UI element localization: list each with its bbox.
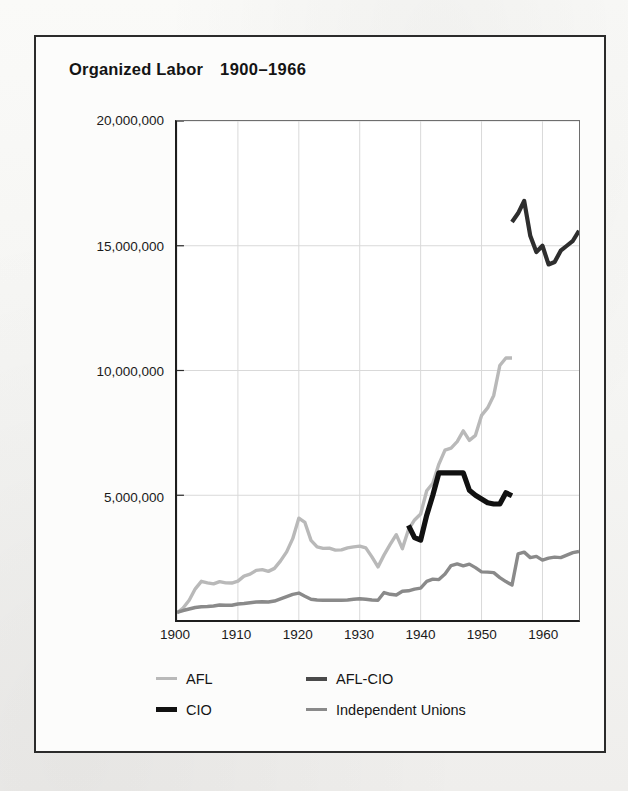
gridlines [177,121,579,620]
chart-title-years: 1900–1966 [220,60,306,78]
legend-row: CIOIndependent Unions [156,694,556,725]
legend-swatch-icon [306,677,327,681]
page-title: Organized Labor1900–1966 [69,60,306,79]
legend-label: CIO [186,702,212,718]
series-line-afl [177,358,512,613]
x-axis-tick-label: 1920 [283,627,313,642]
legend-item-afl[interactable]: AFL [156,671,306,687]
figure-frame: Organized Labor1900–1966 5,000,00010,000… [34,35,606,753]
axis-ticks [177,121,184,495]
x-axis-tick-label: 1940 [405,627,435,642]
y-axis-tick-labels: 5,000,00010,000,00015,000,00020,000,000 [36,120,164,622]
y-axis-tick-label: 10,000,000 [96,364,164,379]
y-axis-tick-label: 15,000,000 [96,238,164,253]
y-axis-tick-label: 5,000,000 [104,489,164,504]
legend-swatch-icon [156,677,177,680]
y-axis-tick-label: 20,000,000 [96,113,164,128]
legend-item-cio[interactable]: CIO [156,702,306,718]
legend-label: AFL-CIO [336,671,393,687]
chart-svg [177,121,579,620]
data-series [177,201,579,613]
legend-label: Independent Unions [336,702,466,718]
x-axis-tick-label: 1910 [221,627,251,642]
x-axis-tick-labels: 1900191019201930194019501960 [175,627,580,651]
series-line-afl-cio [512,201,579,265]
legend-swatch-icon [156,707,177,712]
x-axis-tick-label: 1900 [160,627,190,642]
legend-swatch-icon [306,708,327,711]
chart-legend: AFLAFL-CIOCIOIndependent Unions [156,663,556,725]
legend-row: AFLAFL-CIO [156,663,556,694]
x-axis-tick-label: 1950 [467,627,497,642]
legend-item-independent-unions[interactable]: Independent Unions [306,702,466,718]
plot-area [175,120,580,622]
legend-label: AFL [186,671,213,687]
screenshot-page: Organized Labor1900–1966 5,000,00010,000… [0,0,628,791]
x-axis-tick-label: 1960 [528,627,558,642]
plot-wrapper [175,120,580,622]
legend-item-afl-cio[interactable]: AFL-CIO [306,671,393,687]
chart-title-main: Organized Labor [69,60,203,78]
x-axis-tick-label: 1930 [344,627,374,642]
